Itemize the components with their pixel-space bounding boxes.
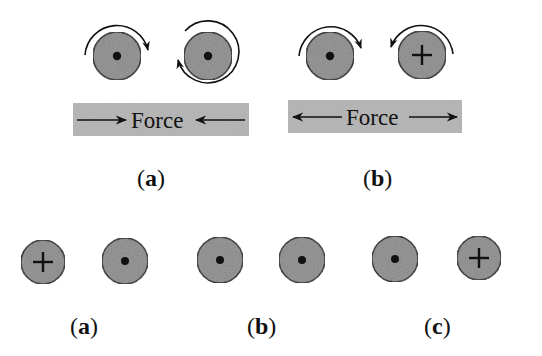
wire-current-out-icon [279, 237, 325, 283]
wire-current-in-icon [21, 240, 65, 284]
panel-label: (b) [247, 313, 276, 339]
bottom-panel-c: (c) [372, 236, 501, 339]
force-bar: Force [73, 103, 249, 136]
wire-current-out-icon [184, 32, 232, 80]
panel-label: (c) [424, 313, 451, 339]
force-bar: Force [288, 100, 462, 133]
wire-current-in-icon [398, 31, 446, 79]
force-label: Force [346, 105, 398, 130]
wire-current-out-icon [372, 236, 418, 282]
top-panel-a: Force (a) [73, 21, 249, 191]
bottom-panel-a: (a) [21, 238, 148, 339]
wire-current-out-icon [102, 238, 148, 284]
wire-current-out-icon [93, 32, 141, 80]
panel-label: (a) [70, 313, 98, 339]
force-label: Force [131, 108, 183, 133]
panel-label: (b) [363, 165, 392, 191]
bottom-panel-b: (b) [197, 237, 325, 339]
wire-current-in-icon [457, 236, 501, 280]
panel-label: (a) [137, 165, 165, 191]
wire-current-out-icon [197, 237, 243, 283]
top-panel-b: Force (b) [288, 26, 462, 191]
wire-current-out-icon [306, 32, 354, 80]
diagram-canvas: Force (a) Force (b) [0, 0, 542, 356]
